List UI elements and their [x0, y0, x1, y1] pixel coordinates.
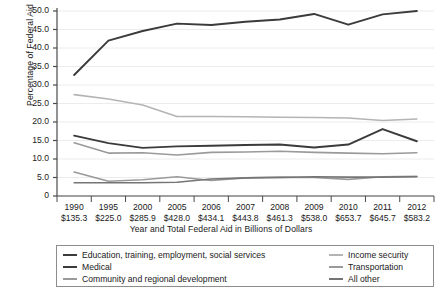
y-axis-tick-label: 30.0	[15, 80, 49, 89]
x-axis-year-label: 2006	[194, 202, 228, 212]
x-axis-year-label: 2011	[365, 202, 399, 212]
y-axis-tick-label: 50.0	[15, 6, 49, 15]
x-axis-amount-label: $538.0	[295, 213, 333, 223]
chart-legend: Education, training, employment, social …	[56, 245, 434, 287]
legend-item: Medical	[63, 261, 265, 273]
x-axis-year-label: 1990	[57, 202, 91, 212]
legend-item: Community and regional development	[63, 273, 265, 285]
x-axis-amount-label: $428.0	[158, 213, 196, 223]
legend-item: Income security	[329, 249, 408, 261]
legend-item-label: Community and regional development	[82, 274, 227, 285]
y-axis-tick-label: 25.0	[15, 99, 49, 108]
x-axis-year-label: 2000	[126, 202, 160, 212]
x-axis-year-label: 1995	[91, 202, 125, 212]
x-axis-title: Year and Total Federal Aid in Billions o…	[0, 224, 442, 234]
legend-color-swatch	[63, 278, 77, 280]
x-axis-year-label: 2008	[263, 202, 297, 212]
legend-color-swatch	[329, 266, 343, 268]
legend-column-right: Income securityTransportationAll other	[329, 249, 408, 285]
legend-column-left: Education, training, employment, social …	[63, 249, 265, 285]
x-axis-year-label: 2012	[400, 202, 434, 212]
x-axis-year-label: 2005	[160, 202, 194, 212]
x-axis-amount-label: $135.3	[55, 213, 93, 223]
legend-item: Education, training, employment, social …	[63, 249, 265, 261]
x-axis-amount-label: $285.9	[124, 213, 162, 223]
x-axis-amount-label: $583.2	[398, 213, 436, 223]
y-axis-tick-label: 45.0	[15, 25, 49, 34]
y-axis-tick-label: 5.0	[15, 173, 49, 182]
y-axis-tick-label: 0	[15, 191, 49, 200]
legend-item: All other	[329, 273, 408, 285]
x-axis-year-label: 2007	[228, 202, 262, 212]
y-axis-tick-label: 15.0	[15, 136, 49, 145]
legend-item-label: Education, training, employment, social …	[82, 250, 265, 261]
y-axis-tick-label: 40.0	[15, 43, 49, 52]
x-axis-year-label: 2009	[297, 202, 331, 212]
line-chart: Percentage of Federal Aid 05.010.015.020…	[0, 0, 442, 293]
x-axis-amount-label: $225.0	[89, 213, 127, 223]
legend-color-swatch	[63, 254, 77, 256]
y-axis-tick-label: 35.0	[15, 62, 49, 71]
legend-item-label: Medical	[82, 262, 112, 273]
legend-color-swatch	[63, 266, 77, 268]
legend-item-label: Transportation	[348, 262, 403, 273]
x-axis-amount-label: $443.8	[226, 213, 264, 223]
legend-item: Transportation	[329, 261, 408, 273]
legend-color-swatch	[329, 278, 343, 280]
x-axis-amount-label: $434.1	[192, 213, 230, 223]
y-axis-tick-label: 10.0	[15, 154, 49, 163]
x-axis-year-label: 2010	[331, 202, 365, 212]
y-axis-tick-label: 20.0	[15, 117, 49, 126]
legend-item-label: Income security	[348, 250, 408, 261]
series-line	[74, 129, 417, 148]
legend-color-swatch	[329, 254, 343, 256]
x-axis-amount-label: $461.3	[261, 213, 299, 223]
x-axis-amount-label: $645.7	[363, 213, 401, 223]
series-line	[74, 95, 417, 121]
x-axis-amount-label: $653.7	[329, 213, 367, 223]
series-line	[74, 11, 417, 75]
legend-item-label: All other	[348, 274, 380, 285]
